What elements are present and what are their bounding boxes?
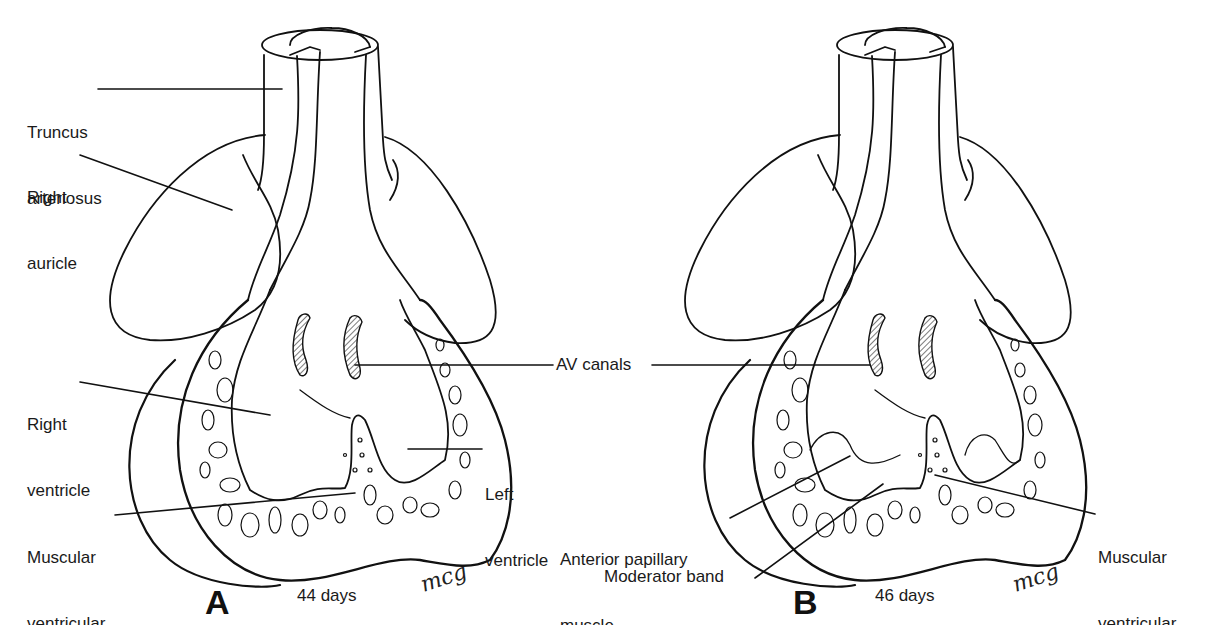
heart-panel-b-drawing — [685, 28, 1086, 587]
age-label-a: 44 days — [297, 586, 357, 606]
label-muscular-ventricular-septum-a: Muscular ventricular septum — [27, 503, 105, 625]
panel-letter-b: B — [793, 585, 818, 619]
label-right-auricle: Right auricle — [27, 143, 77, 297]
heart-panel-a-drawing — [110, 28, 511, 587]
label-muscular-ventricular-septum-b: Muscular ventricular septum — [1098, 503, 1176, 625]
leader-lines-a — [80, 89, 482, 515]
label-moderator-band: Moderator band — [604, 566, 724, 588]
panel-letter-a: A — [205, 585, 230, 619]
label-right-ventricle: Right ventricle — [27, 370, 90, 524]
label-left-ventricle: Left ventricle — [485, 440, 548, 594]
label-av-canals: AV canals — [556, 354, 631, 376]
label-anterior-papillary-muscle: Anterior papillary muscle — [560, 505, 688, 625]
age-label-b: 46 days — [875, 586, 935, 606]
